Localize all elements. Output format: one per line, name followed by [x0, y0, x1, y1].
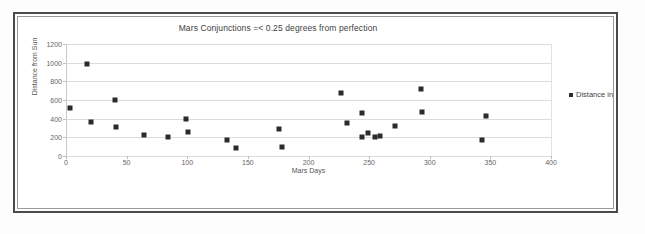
x-axis-tick-label: 250 — [363, 159, 375, 166]
x-axis-tick-label: 350 — [485, 159, 497, 166]
scatter-point — [279, 145, 284, 150]
x-axis-tick-label: 300 — [424, 159, 436, 166]
y-tickmark — [63, 100, 66, 101]
scatter-point — [165, 134, 170, 139]
chart-legend: Distance in Ly — [569, 90, 613, 99]
gridline-y — [66, 119, 551, 120]
scatter-point — [89, 120, 94, 125]
chart-title: Mars Conjunctions =< 0.25 degrees from p… — [18, 23, 538, 33]
gridline-y — [66, 63, 551, 64]
legend-item-label: Distance in Ly — [576, 90, 613, 99]
y-tickmark — [63, 81, 66, 82]
y-axis-tick-label: 0 — [58, 153, 62, 160]
scatter-point — [113, 125, 118, 130]
scatter-point — [112, 97, 117, 102]
scatter-point — [141, 132, 146, 137]
plot-area: 020040060080010001200 050100150200250300… — [66, 44, 551, 156]
scatter-point — [233, 145, 238, 150]
plot-right-border — [551, 44, 552, 157]
scatter-point — [359, 135, 364, 140]
scatter-point — [483, 114, 488, 119]
chart-canvas: Mars Conjunctions =< 0.25 degrees from p… — [18, 17, 613, 208]
y-axis-tick-label: 800 — [50, 78, 62, 85]
scatter-point — [67, 105, 72, 110]
y-tickmark — [63, 119, 66, 120]
x-axis-tick-label: 100 — [181, 159, 193, 166]
x-axis-tick-label: 200 — [303, 159, 315, 166]
y-axis-tick-label: 600 — [50, 97, 62, 104]
y-axis-tick-label: 400 — [50, 115, 62, 122]
scatter-point — [365, 131, 370, 136]
scatter-point — [392, 124, 397, 129]
x-axis-tick-label: 150 — [242, 159, 254, 166]
scatter-point — [420, 109, 425, 114]
gridline-y — [66, 44, 551, 45]
legend-square-marker-icon — [569, 93, 573, 97]
x-axis-title: Mars Days — [66, 167, 551, 174]
gridline-y — [66, 81, 551, 82]
scatter-point — [378, 134, 383, 139]
y-axis-tick-label: 1200 — [46, 41, 62, 48]
x-axis-tick-label: 50 — [123, 159, 131, 166]
gridline-y — [66, 100, 551, 101]
x-axis-tick-label: 400 — [545, 159, 557, 166]
scatter-point — [225, 137, 230, 142]
scatter-point — [339, 91, 344, 96]
y-tickmark — [63, 63, 66, 64]
screenshot-root: Mars Conjunctions =< 0.25 degrees from p… — [0, 0, 645, 234]
y-axis-title: Distance from Sun — [31, 30, 38, 104]
x-axis-tick-label: 0 — [64, 159, 68, 166]
y-axis-tick-label: 1000 — [46, 59, 62, 66]
scatter-point — [184, 117, 189, 122]
scatter-point — [419, 86, 424, 91]
gridline-y — [66, 137, 551, 138]
scatter-point — [277, 126, 282, 131]
scatter-point — [359, 111, 364, 116]
scatter-point — [345, 120, 350, 125]
y-tickmark — [63, 44, 66, 45]
scatter-point — [186, 130, 191, 135]
y-axis-tick-label: 200 — [50, 134, 62, 141]
scatter-point — [479, 137, 484, 142]
scatter-point — [84, 62, 89, 67]
y-tickmark — [63, 137, 66, 138]
